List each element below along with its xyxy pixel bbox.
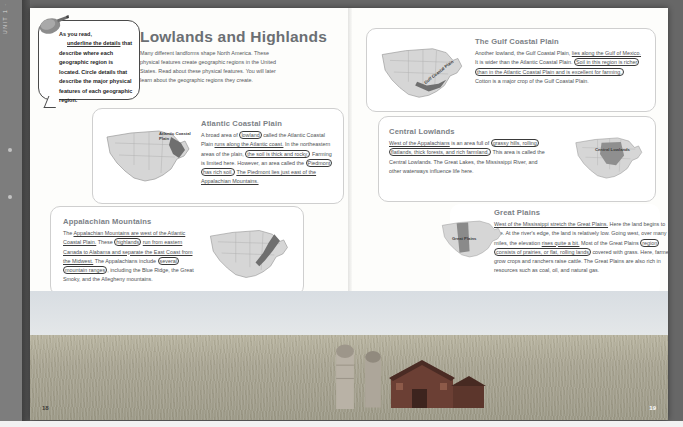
section-title: The Gulf Coastal Plain [475, 37, 641, 46]
section-body: A broad area of lowland called the Atlan… [201, 131, 333, 187]
page-title: Lowlands and Highlands [140, 28, 327, 46]
section-card-gulf-coastal-plain: Gulf Coastal Plain The Gulf Coastal Plai… [366, 28, 656, 112]
rail-dot [8, 148, 12, 152]
section-body: West of the Mississippi stretch the Grea… [494, 220, 668, 276]
page-number-left: 18 [42, 405, 49, 411]
callout-text: As you read, underline the details that … [59, 30, 133, 106]
callout-box: As you read, underline the details that … [38, 20, 140, 100]
map-label: Central Lowlands [595, 147, 630, 152]
bottom-edge [0, 421, 683, 427]
map-label: Great Plains [452, 236, 476, 241]
section-title: Appalachian Mountains [63, 217, 197, 226]
section-card-appalachian-mountains: Appalachian Mountains The Appalachian Mo… [50, 206, 304, 296]
map-great-plains: Great Plains [438, 214, 504, 264]
map-appalachian-mountains [203, 223, 293, 285]
map-central-lowlands: Central Lowlands [571, 131, 645, 185]
callout-line-2: underline the details [67, 40, 120, 46]
section-body: Another lowland, the Gulf Coastal Plain,… [475, 49, 641, 86]
section-title: Central Lowlands [389, 127, 549, 136]
section-card-great-plains: Great Plains West of the Mississippi str… [450, 204, 660, 296]
page-number-right: 19 [649, 405, 656, 411]
section-card-central-lowlands: Central Lowlands West of the Appalachian… [378, 116, 656, 202]
book-spread: Lowlands and Highlands Many different la… [30, 8, 668, 420]
left-rail: UNIT 1 · GEOGRAPHY [0, 0, 22, 427]
map-label: Atlantic Coastal Plain [159, 131, 193, 141]
barn-illustration [386, 346, 516, 408]
section-body: West of the Appalachians is an area full… [389, 139, 549, 176]
farm-photograph: 18 19 [30, 291, 668, 420]
section-title: Atlantic Coastal Plain [201, 119, 333, 128]
book-spine [22, 0, 30, 427]
intro-paragraph: Many different landforms shape North Ame… [140, 49, 280, 85]
section-title: Great Plains [494, 208, 668, 217]
map-gulf-coastal-plain: Gulf Coastal Plain [375, 41, 467, 105]
map-atlantic-coastal-plain: Atlantic Coastal Plain [101, 123, 193, 189]
section-card-atlantic-coastal-plain: Atlantic Coastal Plain Atlantic Coastal … [92, 108, 344, 204]
rail-dot [8, 195, 12, 199]
pencil-icon [35, 15, 69, 41]
silo-illustration [330, 335, 360, 409]
left-rail-label: UNIT 1 · GEOGRAPHY [2, 0, 8, 34]
app-root: UNIT 1 · GEOGRAPHY Lowlands and Highland… [0, 0, 683, 427]
section-body: The Appalachian Mountains are west of th… [63, 229, 197, 285]
silo-illustration [360, 341, 386, 409]
